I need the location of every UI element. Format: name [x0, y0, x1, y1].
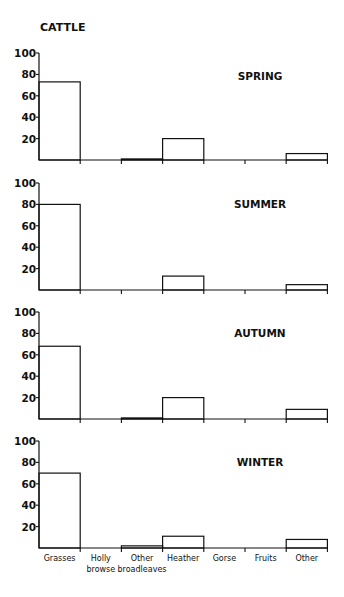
season-label: SPRING — [238, 70, 283, 82]
category-label: Holly — [91, 554, 111, 563]
y-tick-label: 40 — [21, 241, 36, 253]
category-label: broadleaves — [118, 565, 167, 574]
category-label: Other — [131, 554, 154, 563]
y-tick-label: 60 — [21, 349, 36, 361]
category-label: Heather — [167, 554, 200, 563]
bar-other — [286, 539, 327, 548]
chart-canvas: CATTLE 20406080100SPRING20406080100SUMME… — [0, 0, 344, 597]
season-label: AUTUMN — [234, 327, 285, 339]
y-tick-label: 60 — [21, 90, 36, 102]
y-tick-label: 100 — [14, 306, 36, 318]
category-label: browse — [86, 565, 115, 574]
panel-summer: 20406080100SUMMER — [14, 177, 327, 294]
y-tick-label: 40 — [21, 111, 36, 123]
category-label: Gorse — [213, 554, 237, 563]
y-tick-label: 40 — [21, 370, 36, 382]
bar-other-broadleaves — [121, 546, 162, 548]
y-tick-label: 80 — [21, 327, 36, 339]
cattle-diet-chart: CATTLE 20406080100SPRING20406080100SUMME… — [0, 0, 344, 597]
bar-grasses — [39, 346, 80, 419]
panel-winter: 20406080100WINTER — [14, 435, 327, 552]
bar-heather — [163, 139, 204, 160]
season-label: WINTER — [237, 456, 284, 468]
bar-heather — [163, 536, 204, 548]
y-tick-label: 20 — [21, 392, 36, 404]
y-tick-label: 60 — [21, 478, 36, 490]
bar-heather — [163, 398, 204, 419]
bar-grasses — [39, 204, 80, 290]
chart-title: CATTLE — [40, 21, 86, 34]
y-tick-label: 60 — [21, 220, 36, 232]
y-tick-label: 40 — [21, 499, 36, 511]
bar-other-broadleaves — [121, 159, 162, 160]
category-label: Other — [295, 554, 318, 563]
season-panels: 20406080100SPRING20406080100SUMMER204060… — [14, 47, 327, 552]
bar-other — [286, 154, 327, 160]
bar-other — [286, 409, 327, 419]
panel-spring: 20406080100SPRING — [14, 47, 327, 164]
y-tick-label: 80 — [21, 456, 36, 468]
y-tick-label: 80 — [21, 68, 36, 80]
y-tick-label: 20 — [21, 521, 36, 533]
bar-other-broadleaves — [121, 418, 162, 419]
category-label: Grasses — [44, 554, 76, 563]
bar-grasses — [39, 473, 80, 548]
y-tick-label: 20 — [21, 263, 36, 275]
y-tick-label: 20 — [21, 133, 36, 145]
bar-other — [286, 285, 327, 290]
panel-autumn: 20406080100AUTUMN — [14, 306, 327, 423]
season-label: SUMMER — [234, 198, 286, 210]
bar-heather — [163, 276, 204, 290]
x-axis-labels: GrassesHollybrowseOtherbroadleavesHeathe… — [44, 554, 319, 574]
y-tick-label: 80 — [21, 198, 36, 210]
category-label: Fruits — [255, 554, 277, 563]
bar-grasses — [39, 82, 80, 160]
y-tick-label: 100 — [14, 177, 36, 189]
y-tick-label: 100 — [14, 47, 36, 59]
y-tick-label: 100 — [14, 435, 36, 447]
